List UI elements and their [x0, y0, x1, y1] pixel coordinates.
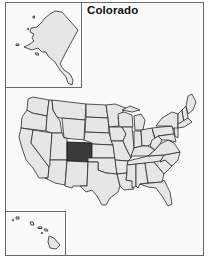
contiguous-us — [19, 94, 196, 206]
hawaii-shape — [12, 217, 60, 249]
alaska-shape — [16, 11, 78, 85]
us-map — [0, 0, 208, 260]
